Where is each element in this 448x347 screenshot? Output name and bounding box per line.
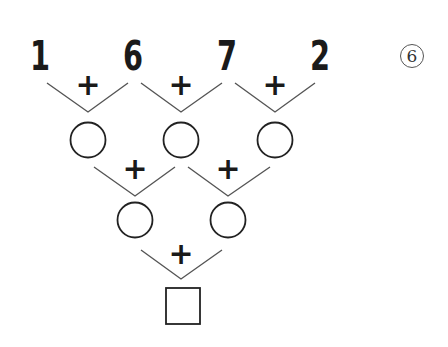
top-number-4: 2 bbox=[309, 36, 331, 76]
blank-circle-r1-1 bbox=[71, 123, 106, 158]
blank-circle-r1-3 bbox=[258, 123, 293, 158]
plus-sign: + bbox=[120, 154, 150, 184]
top-number-2: 6 bbox=[122, 36, 144, 76]
problem-number-badge: 6 bbox=[400, 44, 424, 68]
plus-sign: + bbox=[260, 70, 290, 100]
top-number-3: 7 bbox=[216, 36, 238, 76]
addition-pyramid-diagram: 1 6 7 2 + + + + + + 6 bbox=[0, 0, 448, 347]
plus-sign: + bbox=[213, 154, 243, 184]
plus-sign: + bbox=[166, 70, 196, 100]
plus-sign: + bbox=[73, 70, 103, 100]
blank-circle-r1-2 bbox=[164, 123, 199, 158]
top-number-1: 1 bbox=[29, 36, 51, 76]
blank-circle-r2-1 bbox=[118, 203, 153, 238]
plus-sign: + bbox=[166, 239, 196, 269]
blank-circle-r2-2 bbox=[211, 203, 246, 238]
answer-square bbox=[166, 288, 200, 324]
